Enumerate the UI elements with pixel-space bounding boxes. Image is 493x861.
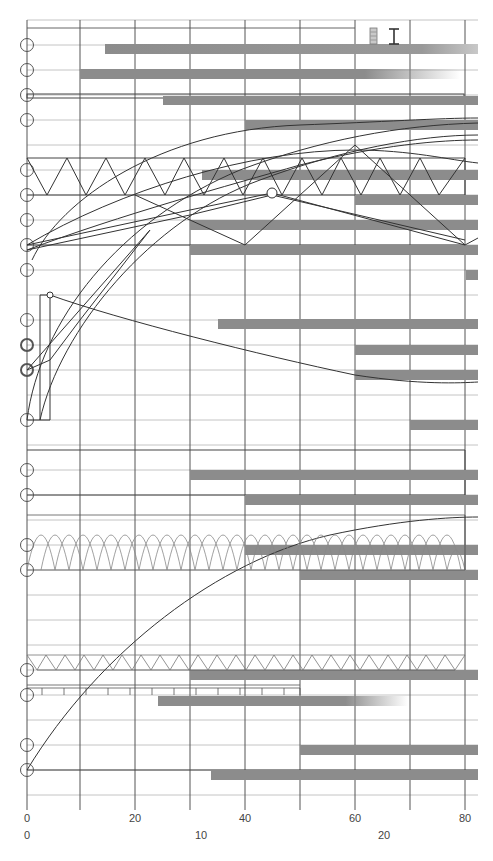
x-axis-primary: 0 20 40 60 80 [24, 812, 471, 824]
bar-row-9 [190, 245, 478, 255]
x-tick-60: 60 [349, 812, 361, 824]
bar-row-22 [300, 570, 478, 580]
bar-row-10 [466, 270, 478, 280]
x2-tick-20: 20 [378, 829, 390, 841]
x2-tick-0: 0 [24, 829, 30, 841]
text-cursor-icon [389, 29, 399, 44]
peak-marker [267, 188, 277, 198]
bar-row-1 [105, 44, 478, 54]
bar-row-8 [190, 220, 478, 230]
comb-band [27, 685, 300, 695]
bar-row-7 [355, 195, 478, 205]
arched-wave-band [27, 515, 465, 570]
vertical-gridlines [27, 20, 465, 810]
triangle-truss-band [27, 655, 465, 670]
striped-bar-icon [370, 28, 377, 44]
x-axis-secondary: 0 10 20 [24, 829, 390, 841]
bar-row-19 [245, 495, 478, 505]
bar-row-2 [80, 69, 460, 79]
x2-tick-10: 10 [195, 829, 207, 841]
bar-row-14 [355, 370, 478, 380]
bar-row-13 [355, 345, 478, 355]
bar-row-26 [190, 670, 478, 680]
bar-row-29 [300, 745, 478, 755]
x-tick-40: 40 [239, 812, 251, 824]
bar-row-12 [218, 319, 478, 329]
bar-row-3 [163, 96, 478, 105]
bar-row-27 [158, 696, 408, 706]
bar-row-30 [211, 770, 478, 780]
bar-row-16 [410, 420, 478, 430]
x-tick-20: 20 [129, 812, 141, 824]
x-tick-80: 80 [459, 812, 471, 824]
x-tick-0: 0 [24, 812, 30, 824]
bar-row-18 [190, 470, 478, 480]
chart-canvas: 0 20 40 60 80 0 10 20 [0, 0, 493, 861]
bar-row-6 [202, 170, 478, 180]
peak-marker-small [47, 292, 53, 298]
